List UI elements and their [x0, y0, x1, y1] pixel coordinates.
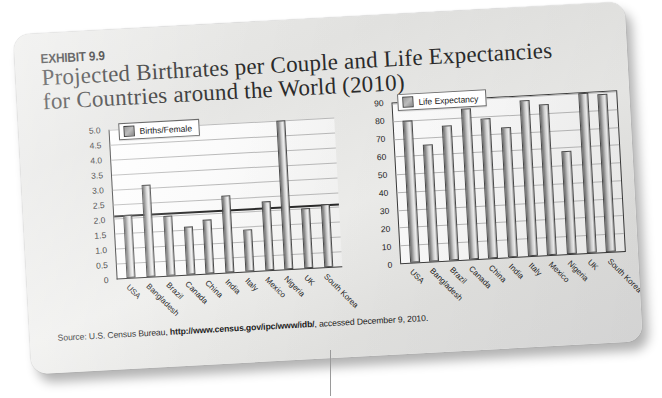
x-tick-label: UK [302, 273, 316, 287]
y-tick-label: 0 [387, 260, 392, 270]
x-label-slot: USA [404, 265, 426, 312]
x-tick-label: South Korea [606, 257, 643, 295]
y-tick-label: 0 [104, 275, 109, 285]
legend-swatch-icon [123, 125, 135, 137]
y-tick-label: 50 [378, 170, 388, 180]
bar[interactable] [243, 229, 254, 271]
y-tick-label: 2.5 [93, 200, 105, 211]
y-tick-label: 4.0 [90, 155, 102, 166]
y-tick-label: 40 [379, 188, 389, 198]
x-label-slot: Italy [523, 258, 545, 305]
bar[interactable] [221, 195, 234, 273]
x-label-slot: UK [582, 255, 604, 302]
legend-label: Births/Female [139, 123, 192, 136]
y-tick-label: 20 [381, 224, 391, 234]
page-fold-line [330, 350, 331, 396]
plot-area-life [391, 90, 625, 264]
y-axis-labels-life: 0102030405060708090 [350, 103, 397, 267]
y-tick-label: 1.0 [95, 245, 107, 256]
x-label-slot: South Korea [602, 254, 624, 301]
bar[interactable] [598, 94, 617, 253]
y-tick-label: 3.5 [91, 170, 103, 181]
x-label-slot: Nigeria [279, 272, 301, 319]
bar[interactable] [501, 127, 518, 257]
legend-swatch-icon [402, 96, 414, 108]
x-label-slot: Bangladesh [141, 279, 163, 326]
x-label-slot: Bangladesh [424, 264, 446, 311]
y-tick-label: 0.5 [96, 260, 108, 271]
y-tick-label: 80 [375, 116, 385, 126]
x-label-slot: China [200, 276, 222, 323]
y-tick-label: 5.0 [88, 125, 100, 136]
plot-area-births [109, 118, 343, 280]
y-tick-label: 1.5 [94, 230, 106, 241]
bar[interactable] [142, 184, 156, 277]
x-label-slot: Mexico [543, 257, 565, 304]
bars-births [110, 118, 343, 279]
x-tick-label: Italy [527, 261, 544, 278]
x-tick-label: USA [408, 267, 426, 285]
x-tick-label: Italy [243, 276, 260, 293]
x-label-slot: South Korea [319, 270, 341, 317]
y-tick-label: 60 [377, 152, 387, 162]
bar[interactable] [163, 216, 175, 276]
x-label-slot: Canada [464, 262, 486, 309]
chart-births-per-female: Births/Female 00.51.01.52.02.53.03.54.04… [66, 109, 347, 328]
bar[interactable] [321, 204, 333, 267]
y-tick-label: 70 [376, 134, 386, 144]
y-tick-label: 10 [382, 242, 392, 252]
y-tick-label: 3.0 [92, 185, 104, 196]
x-label-slot: Mexico [259, 273, 281, 320]
x-label-slot: China [483, 261, 505, 308]
y-tick-label: 4.5 [89, 140, 101, 151]
x-label-slot: Brazil [444, 263, 466, 310]
bar[interactable] [277, 120, 294, 269]
exhibit-page: EXHIBIT 9.9 Projected Birthrates per Cou… [0, 0, 662, 398]
exhibit-card: EXHIBIT 9.9 Projected Birthrates per Cou… [13, 2, 642, 375]
x-tick-label: South Korea [322, 272, 360, 310]
bars-life [393, 91, 625, 263]
bar[interactable] [203, 220, 215, 274]
y-tick-label: 30 [380, 206, 390, 216]
x-tick-label: USA [124, 283, 142, 301]
bar[interactable] [481, 118, 499, 259]
bar[interactable] [561, 151, 577, 254]
source-prefix: Source: U.S. Census Bureau, [57, 327, 170, 343]
x-label-slot: Brazil [160, 278, 182, 325]
x-label-slot: India [220, 275, 242, 322]
bar[interactable] [261, 202, 274, 271]
x-tick-label: UK [586, 258, 600, 272]
bar[interactable] [183, 227, 195, 275]
charts-container: Births/Female 00.51.01.52.02.53.03.54.04… [32, 94, 632, 331]
x-label-slot: Nigeria [563, 256, 585, 303]
x-label-slot: USA [121, 280, 143, 327]
y-tick-label: 2.0 [93, 215, 105, 226]
y-tick-label: 90 [374, 98, 384, 108]
y-axis-labels-births: 00.51.01.52.02.53.03.54.04.55.0 [67, 130, 113, 282]
x-label-slot: India [503, 260, 525, 307]
legend-label: Life Expectancy [418, 93, 478, 106]
x-label-slot: Italy [239, 274, 261, 321]
bar[interactable] [442, 125, 459, 260]
x-label-slot: Canada [180, 277, 202, 324]
bar[interactable] [423, 144, 439, 262]
bar[interactable] [124, 215, 136, 278]
bar[interactable] [301, 208, 313, 268]
x-label-slot: UK [299, 271, 321, 318]
chart-life-expectancy: Life Expectancy 0102030405060708090 USAB… [349, 82, 630, 301]
